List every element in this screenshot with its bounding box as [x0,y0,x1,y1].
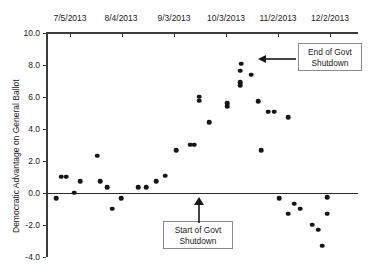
data-point [256,99,261,104]
data-point [144,185,149,190]
y-axis-line [46,32,48,257]
data-point [286,115,291,120]
x-tick-label: 10/3/2013 [207,13,245,23]
data-point [286,211,291,216]
data-point [207,120,212,125]
x-tick-label: 7/5/2013 [53,13,86,23]
data-point [259,148,264,153]
x-tick-label: 11/2/2013 [259,13,296,23]
data-point [95,154,100,159]
scatter-chart: 7/5/2013 8/4/2013 9/3/2013 10/3/2013 11/… [0,0,369,273]
data-point [277,196,282,201]
data-point [298,206,303,211]
data-point [238,83,243,88]
data-point [197,98,202,103]
data-point [266,109,271,114]
y-tick-mark [43,129,47,130]
data-point [105,185,110,190]
annotation-end-arrow-left-icon [258,50,298,68]
y-tick-label: 10.0 [14,28,40,38]
x-tick-label: 12/2/2013 [311,13,349,23]
data-point [320,243,325,248]
x-tick-label: 8/4/2013 [104,13,137,23]
x-tick-label: 9/3/2013 [157,13,190,23]
annotation-start-arrow-up-icon [190,197,208,223]
x-tick-mark [122,34,123,37]
data-point [174,148,179,153]
data-point [119,196,124,201]
data-point [310,222,315,227]
data-point [163,174,168,179]
data-point [272,109,277,114]
data-point [72,190,77,195]
data-point [154,179,159,184]
y-axis-title: Democratic Advantage on General Ballot [11,79,21,233]
y-tick-mark [43,257,47,258]
x-tick-mark [226,34,227,37]
annotation-end-line2: Shutdown [303,58,357,69]
y-tick-mark [43,161,47,162]
data-point [325,195,330,200]
x-tick-mark [330,34,331,37]
y-tick-mark [43,65,47,66]
data-point [136,185,141,190]
x-tick-mark [278,34,279,37]
y-tick-label: -4.0 [14,252,40,262]
data-point [316,227,321,232]
y-tick-label: 8.0 [14,60,40,70]
data-point [325,211,330,216]
data-point [78,179,83,184]
annotation-start-line1: Start of Govt [168,225,228,236]
data-point [239,61,244,66]
data-point [64,174,69,179]
x-axis-line [46,32,358,34]
data-point [249,73,254,78]
data-point [110,206,115,211]
annotation-start-of-shutdown: Start of Govt Shutdown [163,221,233,249]
data-point [98,179,103,184]
y-tick-mark [43,97,47,98]
data-point [225,104,230,109]
annotation-end-line1: End of Govt [303,47,357,58]
x-tick-mark [174,34,175,37]
y-tick-mark [43,33,47,34]
y-tick-mark [43,225,47,226]
plot-area: 7/5/2013 8/4/2013 9/3/2013 10/3/2013 11/… [0,0,369,273]
data-point [59,174,64,179]
zero-reference-line [46,193,358,194]
data-point [192,142,197,147]
data-point [292,202,297,207]
data-point [238,69,243,74]
annotation-end-of-shutdown: End of Govt Shutdown [298,43,362,71]
annotation-start-line2: Shutdown [168,236,228,247]
data-point [54,196,59,201]
x-tick-mark [70,34,71,37]
